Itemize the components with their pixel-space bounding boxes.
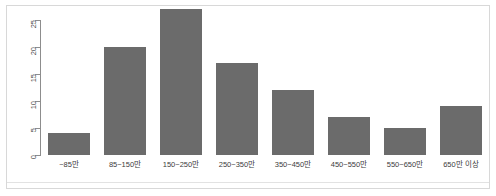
bar <box>216 63 258 155</box>
y-axis-tick-label: 15 <box>30 74 38 96</box>
x-axis-tick-label: 85~150만 <box>97 160 153 170</box>
bar <box>440 106 482 155</box>
bar <box>328 117 370 155</box>
bar <box>48 133 90 155</box>
bar <box>160 9 202 155</box>
x-axis-tick-labels: ~85만85~150만150~250만250~350만350~450만450~5… <box>41 160 489 178</box>
y-axis-tick-label: 25 <box>30 20 38 42</box>
x-axis-tick-label: ~85만 <box>41 160 97 170</box>
x-axis-tick-label: 350~450만 <box>265 160 321 170</box>
x-axis-tick-label: 250~350만 <box>209 160 265 170</box>
y-axis-tick-label: 5 <box>30 128 38 150</box>
bar <box>384 128 426 155</box>
y-axis-tick-label: 0 <box>30 155 38 177</box>
bar-chart: 0510152025 ~85만85~150만150~250만250~350만35… <box>0 0 496 196</box>
x-axis-tick-label: 450~550만 <box>321 160 377 170</box>
y-axis-tick-label: 20 <box>30 47 38 69</box>
x-axis-tick-label: 550~650만 <box>377 160 433 170</box>
bars-container <box>41 12 489 155</box>
bottom-divider <box>7 182 489 183</box>
y-axis-tick-label: 10 <box>30 101 38 123</box>
y-axis-tick-labels: 0510152025 <box>0 0 34 196</box>
bar <box>272 90 314 155</box>
x-axis-tick-label: 150~250만 <box>153 160 209 170</box>
x-axis-tick-label: 650만 이상 <box>433 160 489 170</box>
bar <box>104 47 146 155</box>
